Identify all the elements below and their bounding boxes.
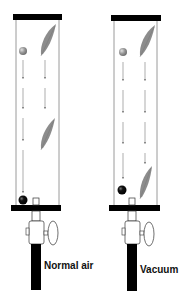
valve-neck xyxy=(32,211,40,221)
vacuum-pipe xyxy=(31,244,41,290)
feather-end-icon xyxy=(41,118,55,150)
label-normal-air: Normal air xyxy=(44,261,93,271)
tube-top-cap xyxy=(111,15,161,21)
vacuum-pipe xyxy=(127,244,137,291)
feather-start-icon xyxy=(140,25,155,57)
ball-start-icon xyxy=(119,48,127,56)
tube-vacuum xyxy=(109,15,161,291)
tube-top-cap xyxy=(13,14,62,20)
feather-end-icon xyxy=(140,166,152,199)
tube-normal-air xyxy=(11,14,62,290)
falling-objects-diagram xyxy=(0,0,189,306)
ball-start-icon xyxy=(19,47,27,55)
label-vacuum: Vacuum xyxy=(140,265,178,275)
valve-neck xyxy=(128,211,136,221)
valve-knob-icon xyxy=(144,222,154,246)
valve-body xyxy=(125,221,140,244)
tube-bottom-plate xyxy=(11,205,61,211)
ball-end-icon xyxy=(118,186,127,195)
tube-bottom-plate xyxy=(109,205,160,211)
feather-start-icon xyxy=(41,24,56,56)
valve-stem xyxy=(33,198,39,205)
ball-end-icon xyxy=(19,196,28,205)
valve-stem xyxy=(129,198,135,205)
valve-knob-icon xyxy=(48,221,58,245)
valve-body xyxy=(29,221,44,244)
